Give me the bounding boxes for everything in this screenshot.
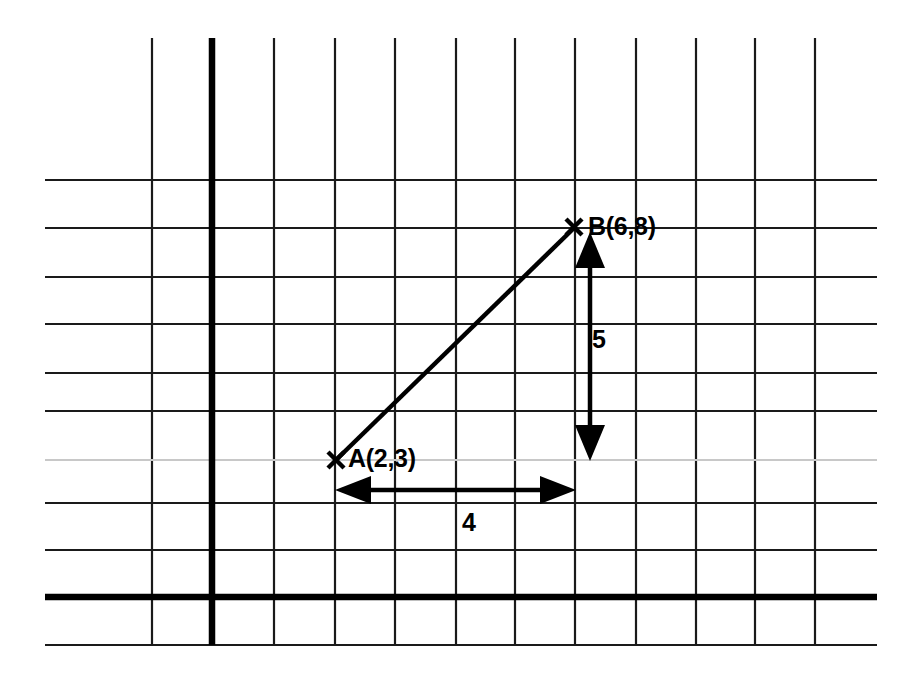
grid-horizontal-lines	[45, 180, 877, 645]
grid-vertical-lines	[152, 38, 815, 645]
horizontal-dimension-label: 4	[462, 508, 476, 537]
point-a-label: A(2,3)	[348, 444, 416, 473]
axes	[45, 38, 877, 645]
point-b-label: B(6,8)	[588, 212, 656, 241]
arrow-head-left-icon	[335, 476, 371, 504]
vertical-dimension-label: 5	[592, 325, 606, 354]
arrow-head-down-icon	[575, 425, 605, 461]
diagram-canvas: B(6,8) A(2,3) 5 4	[0, 0, 914, 682]
coordinate-grid-figure	[0, 0, 914, 682]
arrow-head-right-icon	[540, 476, 576, 504]
